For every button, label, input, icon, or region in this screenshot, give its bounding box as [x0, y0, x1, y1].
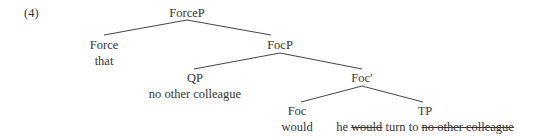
leaf-tp-words: he would turn to no other colleague [336, 120, 514, 134]
node-focp: FocP [267, 38, 293, 52]
branch-focbar-foc [301, 86, 362, 102]
branch-forcep-force [104, 20, 187, 35]
tp-word-turn-to: turn to [385, 120, 418, 134]
leaf-force-word: that [95, 54, 114, 68]
example-number: (4) [24, 6, 39, 20]
node-force: Force [90, 38, 118, 52]
node-foc-bar: Foc′ [351, 71, 372, 85]
leaf-foc-word: would [281, 120, 312, 134]
branch-focp-qp [194, 53, 280, 69]
branch-forcep-focp [187, 20, 271, 35]
tp-word-would-deleted: would [351, 120, 382, 134]
node-tp: TP [418, 104, 433, 118]
node-forcep: ForceP [169, 6, 204, 20]
branch-focbar-tp [362, 86, 423, 102]
leaf-qp-words: no other colleague [149, 87, 241, 101]
node-qp: QP [187, 71, 203, 85]
tp-word-he: he [336, 120, 348, 134]
branch-focp-focbar [280, 53, 362, 69]
node-foc: Foc [288, 104, 307, 118]
tp-word-no-other-colleague-deleted: no other colleague [422, 120, 514, 134]
tree-branches [0, 0, 534, 140]
